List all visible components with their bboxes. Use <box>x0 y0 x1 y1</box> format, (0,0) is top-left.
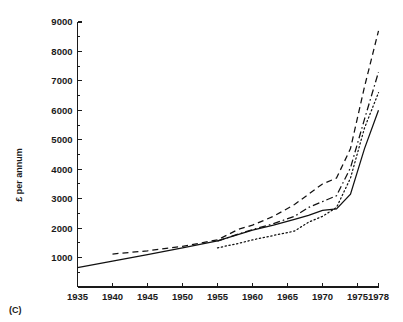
x-tick-label-1945: 1945 <box>137 291 159 302</box>
y-tick-label-8000: 8000 <box>51 46 72 57</box>
y-axis-title: £ per annum <box>14 148 24 202</box>
x-tick-label-1970: 1970 <box>312 291 333 302</box>
x-tick-label-1975: 1975 <box>347 291 369 302</box>
x-tick-label-1940: 1940 <box>102 291 123 302</box>
y-tick-label-3000: 3000 <box>51 193 72 204</box>
y-axis-tick-labels: 100020003000400050006000700080009000 <box>51 16 72 263</box>
data-line-solid <box>78 110 379 267</box>
panel-label: (C) <box>9 305 22 315</box>
y-tick-label-2000: 2000 <box>51 223 72 234</box>
data-line-dashdot <box>218 72 379 241</box>
x-tick-label-1935: 1935 <box>67 291 89 302</box>
y-tick-label-9000: 9000 <box>51 16 72 27</box>
x-tick-label-1978: 1978 <box>368 291 389 302</box>
x-tick-label-1950: 1950 <box>172 291 193 302</box>
y-tick-label-7000: 7000 <box>51 75 72 86</box>
axes <box>78 22 379 287</box>
x-tick-label-1955: 1955 <box>207 291 229 302</box>
chart-canvas: 100020003000400050006000700080009000 193… <box>0 0 403 322</box>
chart-figure: 100020003000400050006000700080009000 193… <box>0 0 403 322</box>
y-tick-label-4000: 4000 <box>51 164 72 175</box>
data-series-group <box>78 31 379 268</box>
x-tick-label-1960: 1960 <box>242 291 263 302</box>
y-tick-label-6000: 6000 <box>51 105 72 116</box>
data-line-dotted <box>218 93 379 248</box>
y-tick-label-5000: 5000 <box>51 134 72 145</box>
x-tick-label-1965: 1965 <box>277 291 299 302</box>
y-axis-ticks <box>78 22 83 272</box>
y-tick-label-1000: 1000 <box>51 252 72 263</box>
data-line-dashed <box>113 31 379 254</box>
x-axis-tick-labels: 1935194019451950195519601965197019751978 <box>67 291 389 302</box>
x-axis-ticks <box>78 283 379 288</box>
